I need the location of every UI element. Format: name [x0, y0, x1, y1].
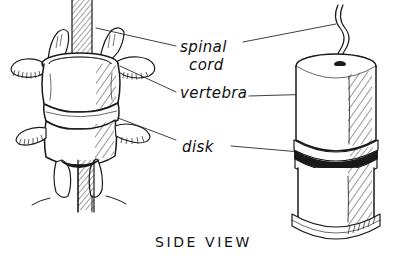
label-disk: disk: [182, 138, 215, 156]
schematic-vertebra-lower: [292, 164, 380, 239]
caption-side-view: SIDE VIEW: [155, 234, 252, 250]
vertebra-lower-icon: [16, 115, 150, 212]
leader-disk-right: [231, 146, 300, 152]
leader-spinal-cord-right: [243, 24, 336, 42]
spine-diagram-figure: spinal cord vertebra disk SIDE VIEW: [0, 0, 403, 263]
diagram-canvas: spinal cord vertebra disk SIDE VIEW: [0, 0, 403, 263]
anatomical-vertebrae-drawing: [11, 0, 155, 212]
schematic-cylinder-drawing: [292, 5, 382, 239]
label-vertebra: vertebra: [180, 84, 247, 102]
label-spinal-cord: spinal cord: [180, 38, 227, 74]
label-spinal-cord-line2: cord: [189, 56, 224, 74]
label-spinal-cord-line1: spinal: [180, 38, 227, 56]
